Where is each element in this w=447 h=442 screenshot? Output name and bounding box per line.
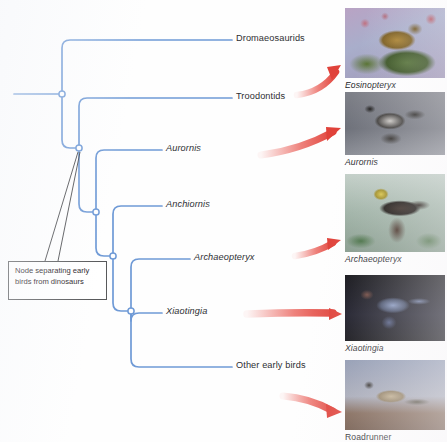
phylogenetic-tree-figure: Dromaeosaurids Troodontids Aurornis Anch… xyxy=(0,0,447,442)
xiaotingia-photo xyxy=(345,275,445,341)
branch-anchiornis xyxy=(113,206,162,256)
roadrunner-caption: Roadrunner xyxy=(345,432,445,442)
arrow-archaeopteryx xyxy=(295,238,341,256)
photo-card-roadrunner: Roadrunner xyxy=(345,360,445,442)
aurornis-photo xyxy=(345,92,445,155)
arrow-roadrunner xyxy=(283,396,342,418)
xiaotingia-caption: Xiaotingia xyxy=(345,343,445,353)
photo-card-eosinopteryx: Eosinopteryx xyxy=(345,8,445,90)
photo-card-aurornis: Aurornis xyxy=(345,92,445,167)
branch-node1-node2 xyxy=(62,94,79,148)
branch-node3-node4 xyxy=(96,212,113,256)
tip-label-anchiornis: Anchiornis xyxy=(166,200,210,209)
tip-label-xiaotingia: Xiaotingia xyxy=(166,307,207,316)
eosinopteryx-photo xyxy=(345,8,445,78)
tip-label-other-early-birds: Other early birds xyxy=(236,361,306,370)
node-xiaotingia-clade xyxy=(128,308,134,314)
callout-leader-lines xyxy=(45,152,80,261)
tip-label-aurornis: Aurornis xyxy=(166,144,201,153)
branch-node2-node3 xyxy=(79,148,96,212)
photo-card-archaeopteryx: Archaeopteryx xyxy=(345,174,445,264)
tip-label-archaeopteryx: Archaeopteryx xyxy=(194,253,255,262)
branch-troodontids xyxy=(79,98,232,148)
branch-node4-node5 xyxy=(113,256,131,311)
archaeopteryx-caption: Archaeopteryx xyxy=(345,254,445,264)
arrow-eosinopteryx xyxy=(297,65,341,95)
arrow-aurornis xyxy=(261,127,341,155)
branch-aurornis xyxy=(96,150,162,212)
aurornis-caption: Aurornis xyxy=(345,157,445,167)
callout-text: Node separating early birds from dinosau… xyxy=(15,266,89,286)
branch-dromaeosaurids xyxy=(62,40,232,94)
node-archaeopteryx-clade xyxy=(110,253,116,259)
tip-label-troodontids: Troodontids xyxy=(236,92,285,101)
branch-other-early-birds xyxy=(131,311,232,367)
photo-card-xiaotingia: Xiaotingia xyxy=(345,275,445,353)
eosinopteryx-caption: Eosinopteryx xyxy=(345,80,445,90)
branch-archaeopteryx xyxy=(131,259,190,311)
node-root xyxy=(59,91,65,97)
tip-label-dromaeosaurids: Dromaeosaurids xyxy=(236,34,305,43)
callout-box: Node separating early birds from dinosau… xyxy=(8,261,107,300)
roadrunner-photo xyxy=(345,360,445,430)
arrow-xiaotingia xyxy=(247,308,342,320)
node-birds-dinosaurs xyxy=(76,145,82,151)
archaeopteryx-photo xyxy=(345,174,445,252)
node-anchiornis-clade xyxy=(93,209,99,215)
branch-xiaotingia xyxy=(131,311,162,321)
